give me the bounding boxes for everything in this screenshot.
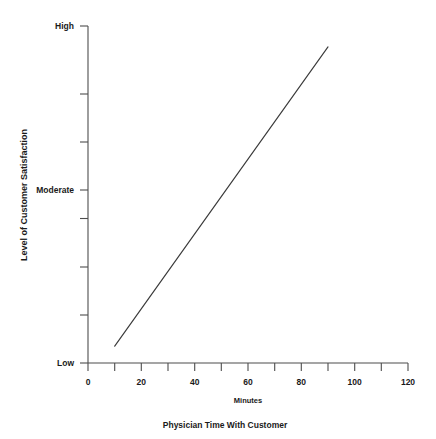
x-axis-title: Minutes — [234, 396, 262, 405]
x-tick-label-120: 120 — [401, 377, 415, 387]
chart-figure: Level of Customer Satisfaction High Mode… — [0, 0, 436, 439]
x-tick-label-80: 80 — [297, 377, 307, 387]
figure-caption: Physician Time With Customer — [163, 420, 288, 430]
x-tick-label-60: 60 — [243, 377, 253, 387]
x-tick-label-0: 0 — [86, 377, 91, 387]
y-tick-label-moderate: Moderate — [36, 185, 74, 195]
y-axis-ticks — [80, 26, 88, 363]
y-axis-title: Level of Customer Satisfaction — [19, 129, 29, 261]
x-axis-ticks — [88, 363, 408, 371]
y-tick-label-high: High — [55, 21, 74, 31]
x-tick-label-20: 20 — [137, 377, 147, 387]
line-chart-svg: Level of Customer Satisfaction High Mode… — [0, 0, 436, 439]
y-tick-label-low: Low — [57, 358, 74, 368]
x-tick-label-40: 40 — [190, 377, 200, 387]
x-tick-label-100: 100 — [348, 377, 362, 387]
data-series-line — [115, 47, 328, 346]
